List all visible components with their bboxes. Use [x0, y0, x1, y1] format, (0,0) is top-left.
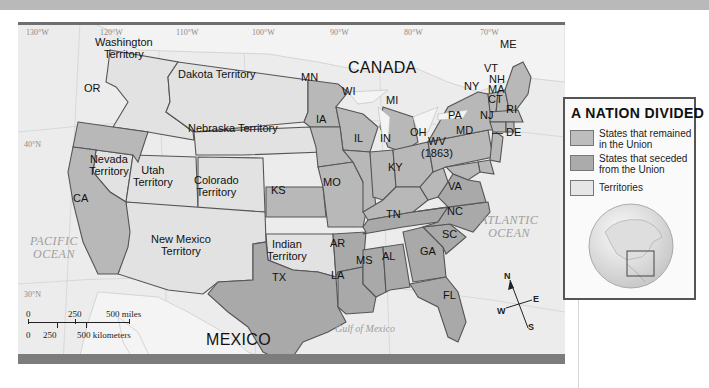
- label-gulf-of-mexico: Gulf of Mexico: [335, 322, 395, 335]
- latitude-label: 30°N: [24, 290, 41, 299]
- state-label-al: AL: [382, 250, 395, 262]
- legend-label-territories: Territories: [599, 182, 643, 193]
- label-mexico: MEXICO: [206, 334, 271, 346]
- label-atlantic-ocean: ATLANTICOCEAN: [480, 214, 538, 240]
- state-label-me: ME: [500, 38, 517, 50]
- state-label-la: LA: [331, 269, 344, 281]
- state-label-ri: RI: [506, 103, 517, 115]
- label-canada: CANADA: [348, 62, 416, 74]
- civil-war-map: 130°W 120°W 110°W 100°W 90°W 80°W 70°W 4…: [18, 22, 565, 364]
- state-label-md: MD: [456, 124, 473, 136]
- state-label-de: — DE: [492, 126, 521, 138]
- label-indian-territory: IndianTerritory: [267, 238, 307, 262]
- state-label-mo: MO: [323, 176, 341, 188]
- label-pacific-ocean: PACIFICOCEAN: [30, 235, 78, 261]
- legend-swatch-union: [570, 130, 594, 146]
- state-label-va: VA: [448, 180, 462, 192]
- state-label-il: IL: [354, 132, 363, 144]
- legend-swatch-territories: [570, 180, 594, 196]
- map-frame-top: [18, 22, 565, 25]
- latitude-label: 40°N: [24, 140, 41, 149]
- scale-bar: 0 250 500 miles 0 250 500 kilometers: [26, 305, 166, 345]
- column-rule: [578, 300, 579, 388]
- state-label-ks: KS: [271, 184, 286, 196]
- svg-text:E: E: [533, 294, 539, 304]
- top-banner: [0, 0, 709, 10]
- state-label-mn: MN: [301, 71, 318, 83]
- legend-label-seceded: States that seceded from the Union: [599, 153, 694, 175]
- state-label-ct: CT: [488, 93, 503, 105]
- state-label-ia: IA: [316, 113, 326, 125]
- svg-text:S: S: [528, 322, 534, 332]
- longitude-label: 80°W: [404, 28, 423, 37]
- label-dakota-territory: Dakota Territory: [178, 68, 255, 80]
- svg-text:W: W: [497, 306, 506, 316]
- label-washington-territory: WashingtonTerritory: [95, 36, 153, 60]
- state-label-ky: KY: [388, 161, 403, 173]
- state-label-mi: MI: [386, 94, 398, 106]
- state-label-sc: SC: [442, 228, 457, 240]
- state-label-fl: FL: [443, 289, 456, 301]
- state-label-nj: NJ: [480, 109, 493, 121]
- label-nevada-territory: NevadaTerritory: [89, 153, 129, 177]
- longitude-label: 70°W: [480, 28, 499, 37]
- label-utah-territory: UtahTerritory: [133, 164, 173, 188]
- state-label-in: IN: [380, 132, 391, 144]
- state-label-ms: MS: [356, 254, 373, 266]
- state-label-tx: TX: [272, 271, 286, 283]
- state-label-wi: WI: [342, 85, 355, 97]
- svg-text:N: N: [504, 271, 511, 281]
- longitude-label: 110°W: [176, 28, 198, 37]
- legend-box: A NATION DIVIDED States that remained in…: [563, 97, 696, 300]
- state-label-ca: CA: [73, 192, 88, 204]
- state-label-ar: AR: [330, 237, 345, 249]
- legend-title: A NATION DIVIDED: [571, 105, 704, 121]
- longitude-label: 90°W: [330, 28, 349, 37]
- state-label-pa: PA: [448, 109, 462, 121]
- state-label-or: OR: [84, 82, 101, 94]
- longitude-label: 100°W: [252, 28, 275, 37]
- map-frame-bottom: [18, 354, 565, 364]
- label-colorado-territory: ColoradoTerritory: [194, 174, 239, 198]
- state-label-tn: TN: [386, 208, 401, 220]
- longitude-label: 130°W: [26, 28, 49, 37]
- label-nebraska-territory: Nebraska Territory: [188, 122, 278, 134]
- legend-swatch-seceded: [570, 155, 594, 171]
- state-label-wv: WV(1863): [421, 135, 453, 159]
- state-label-ny: NY: [464, 80, 479, 92]
- globe-locator-icon: [587, 202, 675, 290]
- legend-label-union: States that remained in the Union: [599, 128, 694, 150]
- label-new-mexico-territory: New MexicoTerritory: [151, 233, 211, 257]
- state-label-nc: NC: [447, 205, 463, 217]
- state-label-ga: GA: [420, 245, 436, 257]
- compass-rose-icon: N S E W: [496, 270, 546, 340]
